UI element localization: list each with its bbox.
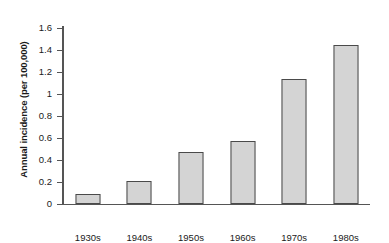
y-axis-tick-label: 1.4 [39, 44, 52, 55]
y-axis-tick-label: 0.8 [39, 110, 52, 121]
x-axis-tick-label: 1960s [217, 232, 269, 243]
bar-group [217, 22, 269, 204]
x-axis-tick-label: 1970s [268, 232, 320, 243]
x-axis-tick-label: 1930s [62, 232, 114, 243]
x-axis-tick-label: 1980s [320, 232, 372, 243]
y-axis-tick-label: 0.4 [39, 154, 52, 165]
bar-group [114, 22, 166, 204]
y-axis-tick-label: 1 [47, 88, 52, 99]
y-axis-tick-label: 0.6 [39, 132, 52, 143]
bar-group [320, 22, 372, 204]
x-axis-tick-label: 1950s [165, 232, 217, 243]
bar-1980s [333, 45, 358, 205]
x-axis-tick-label: 1940s [114, 232, 166, 243]
bar-1960s [230, 141, 255, 204]
y-axis-tick-label: 0 [47, 198, 52, 209]
bar-group [165, 22, 217, 204]
bar-1950s [178, 152, 203, 204]
bar-group [268, 22, 320, 204]
bar-1970s [282, 79, 307, 204]
bar-1940s [127, 181, 152, 204]
plot-area: 1930s1940s1950s1960s1970s1980s [62, 22, 372, 204]
y-axis-tick-label: 1.2 [39, 66, 52, 77]
y-axis-title: Annual incidence (per 100,000) [18, 15, 29, 205]
bar-group [62, 22, 114, 204]
y-axis-tick-label: 0.2 [39, 176, 52, 187]
y-axis-tick-label: 1.6 [39, 22, 52, 33]
bar-1930s [75, 194, 100, 204]
